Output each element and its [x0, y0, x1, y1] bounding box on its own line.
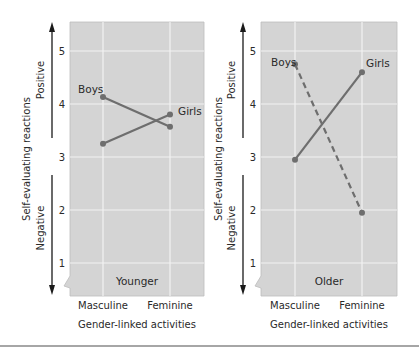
- panel-label: Younger: [115, 275, 159, 287]
- x-tick-label: Feminine: [147, 300, 192, 311]
- arrow-down-icon: [49, 285, 55, 295]
- y-tick-label: 2: [59, 205, 65, 216]
- chart-panel-younger: 12345BoysGirlsYoungerMasculineFeminineGe…: [21, 22, 204, 330]
- figure: 12345BoysGirlsYoungerMasculineFeminineGe…: [0, 0, 419, 349]
- y-axis-label: Self-evaluating reactions: [21, 97, 32, 221]
- series-label-boys: Boys: [271, 56, 296, 68]
- data-point: [100, 94, 106, 100]
- y-tick-label: 3: [250, 152, 256, 163]
- data-point: [359, 69, 365, 75]
- y-tick-label: 2: [250, 205, 256, 216]
- chart-panel-older: 12345BoysGirlsOlderMasculineFeminineGend…: [213, 22, 397, 330]
- data-point: [167, 112, 173, 118]
- data-point: [100, 141, 106, 147]
- positive-label: Positive: [226, 61, 237, 100]
- x-axis-label: Gender-linked activities: [78, 319, 196, 330]
- arrow-up-icon: [240, 22, 246, 32]
- y-axis-label: Self-evaluating reactions: [213, 97, 224, 221]
- y-tick-label: 1: [250, 258, 256, 269]
- data-point: [167, 124, 173, 130]
- arrow-down-icon: [240, 285, 246, 295]
- negative-label: Negative: [226, 206, 237, 251]
- plot-area: [64, 22, 204, 296]
- y-tick-label: 1: [59, 258, 65, 269]
- x-tick-label: Masculine: [78, 300, 128, 311]
- series-label-girls: Girls: [366, 57, 390, 69]
- x-axis-label: Gender-linked activities: [270, 319, 388, 330]
- y-tick-label: 3: [59, 152, 65, 163]
- positive-label: Positive: [35, 61, 46, 100]
- y-tick-label: 4: [250, 99, 256, 110]
- data-point: [359, 210, 365, 216]
- data-point: [292, 157, 298, 163]
- series-label-boys: Boys: [78, 83, 103, 95]
- negative-label: Negative: [35, 206, 46, 251]
- x-tick-label: Masculine: [270, 300, 320, 311]
- y-tick-label: 5: [250, 46, 256, 57]
- y-tick-label: 4: [59, 99, 65, 110]
- arrow-up-icon: [49, 22, 55, 32]
- y-tick-label: 5: [59, 46, 65, 57]
- series-label-girls: Girls: [178, 105, 202, 117]
- x-tick-label: Feminine: [339, 300, 384, 311]
- panel-label: Older: [315, 275, 344, 287]
